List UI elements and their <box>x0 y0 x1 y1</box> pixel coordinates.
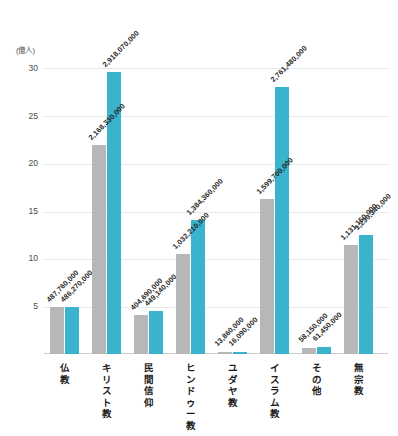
y-tick-30: 30 <box>22 63 38 73</box>
y-tick-5: 5 <box>22 301 38 311</box>
y-tick-25: 25 <box>22 111 38 121</box>
bar-chart: (億人) 30 25 20 15 10 5 487,760,000 486,27… <box>0 0 398 436</box>
bar-teal-5 <box>275 87 289 354</box>
bar-group-7: 1,131,150,000 1,230,340,000 <box>344 64 374 354</box>
bar-group-5: 1,599,700,000 2,761,480,000 <box>260 64 290 354</box>
bar-gray-2 <box>134 315 148 354</box>
bar-teal-0 <box>65 307 79 354</box>
bar-group-0: 487,760,000 486,270,000 <box>50 64 80 354</box>
category-label-5: イスラム教 <box>260 362 290 420</box>
bar-group-1: 2,168,330,000 2,918,070,000 <box>92 64 122 354</box>
category-text-5: イスラム教 <box>260 362 290 420</box>
bar-gray-4 <box>218 352 232 354</box>
category-label-3: ヒンドゥー教 <box>176 362 206 431</box>
category-label-4: ユダヤ教 <box>218 362 248 408</box>
bar-gray-5 <box>260 199 274 354</box>
bar-gray-6 <box>302 348 316 354</box>
category-label-1: キリスト教 <box>92 362 122 420</box>
category-text-0: 仏教 <box>50 362 80 385</box>
bar-gray-3 <box>176 254 190 354</box>
category-text-6: その他 <box>302 362 332 397</box>
category-label-7: 無宗教 <box>344 362 374 397</box>
y-tick-10: 10 <box>22 253 38 263</box>
bar-value-teal-1: 2,918,070,000 <box>101 29 141 69</box>
plot-area: 487,760,000 486,270,000 2,168,330,000 2,… <box>44 64 388 354</box>
bar-group-3: 1,032,210,000 1,384,360,000 <box>176 64 206 354</box>
category-text-1: キリスト教 <box>92 362 122 420</box>
bar-gray-0 <box>50 307 64 354</box>
category-text-4: ユダヤ教 <box>218 362 248 408</box>
bar-group-2: 404,690,000 449,140,000 <box>134 64 164 354</box>
bar-gray-1 <box>92 145 106 354</box>
y-tick-20: 20 <box>22 158 38 168</box>
category-text-7: 無宗教 <box>344 362 374 397</box>
category-label-2: 民間信仰 <box>134 362 164 408</box>
bar-teal-4 <box>233 352 247 354</box>
y-axis-unit-label: (億人) <box>16 44 35 55</box>
bar-teal-6 <box>317 347 331 354</box>
category-text-2: 民間信仰 <box>134 362 164 408</box>
bar-group-6: 58,150,000 61,450,000 <box>302 64 332 354</box>
category-label-0: 仏教 <box>50 362 80 385</box>
y-tick-15: 15 <box>22 206 38 216</box>
bar-group-4: 13,860,000 16,090,000 <box>218 64 248 354</box>
category-text-3: ヒンドゥー教 <box>176 362 206 431</box>
bar-teal-7 <box>359 235 373 354</box>
bar-teal-3 <box>191 220 205 354</box>
bar-gray-7 <box>344 245 358 354</box>
category-label-6: その他 <box>302 362 332 397</box>
bar-teal-2 <box>149 311 163 354</box>
